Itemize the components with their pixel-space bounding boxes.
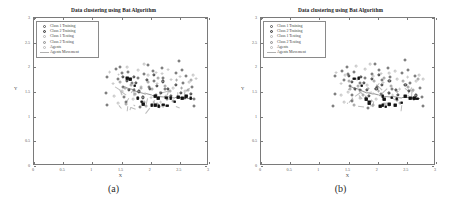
agents-movement-path bbox=[176, 106, 180, 108]
x-tick-mark bbox=[290, 162, 291, 164]
y-tick-label: 1.5 bbox=[18, 89, 30, 94]
y-tick-label: 0.5 bbox=[245, 138, 257, 143]
data-point bbox=[367, 87, 370, 90]
data-point bbox=[106, 75, 109, 78]
x-tick-mark-top bbox=[407, 18, 408, 20]
x-tick-label: 3 bbox=[434, 167, 436, 172]
x-tick-label: 1 bbox=[90, 167, 92, 172]
x-tick-label: 0.5 bbox=[287, 167, 292, 172]
data-point bbox=[161, 72, 164, 75]
data-point bbox=[377, 89, 380, 92]
x-tick-label: 2.5 bbox=[176, 167, 181, 172]
data-point bbox=[394, 104, 397, 107]
y-tick-mark-right bbox=[432, 18, 434, 19]
data-point bbox=[417, 78, 420, 81]
data-point bbox=[413, 97, 416, 100]
data-point bbox=[388, 80, 391, 83]
data-point bbox=[121, 90, 124, 93]
data-point bbox=[180, 91, 183, 94]
data-point bbox=[174, 71, 177, 74]
data-point bbox=[172, 87, 175, 90]
legend-marker-icon bbox=[266, 25, 277, 28]
data-point bbox=[132, 98, 135, 101]
data-point bbox=[366, 83, 369, 86]
data-point bbox=[173, 100, 176, 103]
data-point bbox=[189, 92, 192, 95]
legend-line-icon bbox=[266, 52, 277, 53]
data-point bbox=[160, 67, 163, 70]
y-axis-title: Y bbox=[241, 86, 244, 91]
legend-marker-icon bbox=[266, 30, 277, 33]
y-tick-label: 2.5 bbox=[18, 39, 30, 44]
y-tick-mark bbox=[261, 67, 263, 68]
data-point bbox=[396, 78, 399, 81]
data-point bbox=[185, 95, 188, 98]
data-point bbox=[364, 68, 367, 71]
agents-movement-path bbox=[119, 106, 122, 110]
legend-marker-icon bbox=[39, 35, 50, 38]
data-point bbox=[406, 86, 409, 89]
data-point bbox=[334, 75, 337, 78]
y-tick-label: 3 bbox=[245, 15, 257, 20]
legend-item[interactable]: Agents Movement bbox=[266, 50, 322, 55]
data-point bbox=[127, 70, 130, 73]
data-point bbox=[347, 79, 350, 82]
legend-marker-icon bbox=[39, 25, 50, 28]
data-point bbox=[180, 68, 183, 71]
data-point bbox=[169, 97, 172, 100]
data-point bbox=[371, 103, 374, 106]
data-point bbox=[134, 93, 137, 96]
agents-movement-path bbox=[347, 103, 348, 104]
data-point bbox=[343, 101, 346, 104]
data-point bbox=[150, 96, 153, 99]
data-point bbox=[166, 105, 169, 108]
y-tick-mark bbox=[34, 166, 36, 167]
data-point bbox=[165, 96, 168, 99]
data-point bbox=[181, 97, 184, 100]
data-point bbox=[347, 74, 350, 77]
data-point bbox=[179, 75, 182, 78]
data-point bbox=[358, 77, 361, 80]
data-point bbox=[332, 104, 335, 107]
agents-movement-path bbox=[401, 106, 402, 112]
legend-label: Agents Movement bbox=[277, 50, 306, 55]
x-axis-title: X bbox=[33, 173, 208, 178]
x-tick-label: 2 bbox=[376, 167, 378, 172]
legend-item[interactable]: Agents Movement bbox=[39, 50, 95, 55]
data-point bbox=[413, 74, 416, 77]
panel-caption: (a) bbox=[0, 183, 227, 194]
x-tick-mark bbox=[92, 162, 93, 164]
data-point bbox=[190, 97, 193, 100]
x-tick-label: 0.5 bbox=[60, 167, 65, 172]
x-tick-mark-top bbox=[209, 18, 210, 20]
x-tick-mark bbox=[407, 162, 408, 164]
data-point bbox=[114, 68, 117, 71]
data-point bbox=[390, 96, 393, 99]
data-point bbox=[353, 77, 356, 80]
data-point bbox=[395, 90, 398, 93]
data-point bbox=[193, 97, 196, 100]
y-tick-mark-right bbox=[205, 67, 207, 68]
data-point bbox=[169, 78, 172, 81]
y-tick-mark-right bbox=[432, 67, 434, 68]
data-point bbox=[353, 71, 356, 74]
data-point bbox=[191, 86, 194, 89]
data-point bbox=[188, 81, 191, 84]
data-point bbox=[178, 59, 181, 62]
data-point bbox=[113, 94, 116, 97]
data-point bbox=[125, 102, 128, 105]
data-point bbox=[390, 84, 393, 87]
data-point bbox=[147, 80, 150, 83]
data-point bbox=[373, 80, 376, 83]
y-tick-mark-right bbox=[205, 92, 207, 93]
data-point bbox=[119, 66, 122, 69]
y-tick-mark bbox=[34, 141, 36, 142]
data-point bbox=[142, 103, 145, 106]
legend-marker-icon bbox=[266, 35, 277, 38]
y-tick-mark bbox=[261, 18, 263, 19]
data-point bbox=[393, 69, 396, 72]
data-point bbox=[416, 97, 419, 100]
data-point bbox=[175, 79, 178, 82]
data-point bbox=[380, 72, 383, 75]
data-point bbox=[409, 97, 412, 100]
